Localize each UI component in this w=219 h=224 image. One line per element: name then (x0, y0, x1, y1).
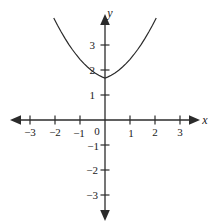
y-tick-label-2: 2 (90, 64, 96, 76)
y-tick-label-3: 3 (90, 39, 96, 51)
x-tick-label-1: 1 (128, 127, 134, 139)
x-axis-label: x (201, 113, 208, 127)
x-tick-label-3: 3 (177, 126, 183, 138)
y-tick-label-neg2: −2 (86, 164, 98, 176)
y-tick-label-1: 1 (90, 89, 96, 101)
origin-label: 0 (94, 125, 100, 137)
x-axis-left-arrow-icon (10, 115, 21, 125)
x-tick-label-neg3: −3 (24, 126, 36, 138)
y-tick-label-neg3: −3 (86, 189, 98, 201)
y-axis-down-arrow-icon (100, 210, 110, 221)
x-axis-right-arrow-icon (189, 115, 200, 125)
y-axis-label: y (106, 6, 113, 20)
x-tick-label-2: 2 (152, 126, 158, 138)
y-tick-label-neg1: −1 (87, 140, 99, 152)
x-tick-label-neg2: −2 (49, 126, 61, 138)
x-tick-label-neg1: −1 (73, 127, 85, 139)
coordinate-plane: −3 −2 −1 1 2 3 0 3 2 1 −1 −2 −3 x y (0, 0, 219, 224)
graph-figure: −3 −2 −1 1 2 3 0 3 2 1 −1 −2 −3 x y (0, 0, 219, 224)
